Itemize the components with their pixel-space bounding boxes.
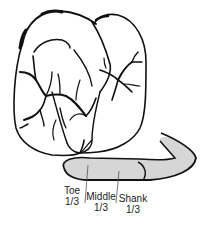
segment-label-shank: Shank 1/3 (116, 193, 150, 215)
shank-fraction: 1/3 (116, 204, 150, 215)
hand-outline (14, 11, 146, 156)
segment-label-toe: Toe 1/3 (60, 185, 84, 207)
toe-fraction: 1/3 (60, 196, 84, 207)
middle-label: Middle (85, 191, 117, 202)
shank-label: Shank (116, 193, 150, 204)
crease-lines (20, 52, 142, 153)
segment-label-middle: Middle 1/3 (85, 191, 117, 213)
middle-fraction: 1/3 (85, 202, 117, 213)
toe-label: Toe (60, 185, 84, 196)
